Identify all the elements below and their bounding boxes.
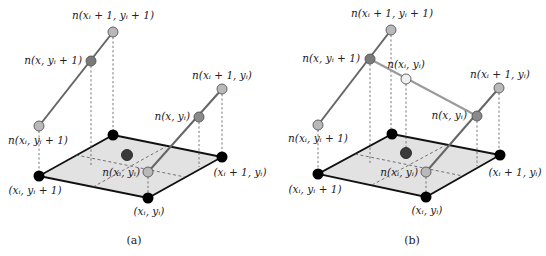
- point-n-xi-yi: [421, 167, 431, 177]
- point-label: n(x, yᵢ): [431, 109, 467, 121]
- grid-corner-point: [108, 130, 119, 141]
- point-label: (xᵢ, yᵢ): [134, 205, 165, 217]
- interpolation-line: [318, 30, 391, 125]
- point-label: n(xᵢ, yᵢ): [380, 166, 418, 178]
- point-label: n(xᵢ, yᵢ + 1): [8, 134, 68, 146]
- interpolation-line: [39, 32, 113, 126]
- point-n-xi-yi-interp: [401, 74, 411, 84]
- point-label: n(xᵢ, yᵢ): [102, 166, 140, 178]
- grid-corner-point: [143, 193, 154, 204]
- grid-corner-point: [217, 152, 228, 163]
- point-label: n(xᵢ + 1, yᵢ): [192, 69, 252, 81]
- grid-corner-point: [34, 171, 45, 182]
- point-label: n(x, yᵢ + 1): [24, 54, 82, 66]
- panel-caption: (b): [404, 234, 420, 247]
- bilinear-interpolation-figure: n(xᵢ + 1, yᵢ + 1)n(x, yᵢ + 1)n(xᵢ + 1, y…: [0, 0, 546, 256]
- point-n-xi1-yi: [494, 83, 504, 93]
- point-center-point: [122, 150, 133, 161]
- point-n-xi1-yi1: [386, 25, 396, 35]
- point-n-x-yi: [194, 112, 204, 122]
- point-n-x-yi1: [365, 54, 375, 64]
- grid-corner-point: [387, 129, 398, 140]
- point-label: n(xᵢ, yᵢ + 1): [288, 132, 348, 144]
- point-label: n(xᵢ + 1, yᵢ + 1): [72, 9, 154, 21]
- point-label: (xᵢ + 1, yᵢ): [488, 166, 541, 178]
- point-label: n(xᵢ, yᵢ): [387, 58, 425, 70]
- point-n-xi1-yi1: [108, 27, 118, 37]
- panel-caption: (a): [126, 234, 141, 247]
- point-label: n(x, yᵢ): [154, 110, 190, 122]
- diagram-canvas: n(xᵢ + 1, yᵢ + 1)n(x, yᵢ + 1)n(xᵢ + 1, y…: [0, 0, 546, 256]
- point-n-xi-yi1: [313, 120, 323, 130]
- point-center-point: [401, 148, 412, 159]
- point-label: (xᵢ, yᵢ + 1): [8, 184, 61, 196]
- panel-a: n(xᵢ + 1, yᵢ + 1)n(x, yᵢ + 1)n(xᵢ + 1, y…: [8, 9, 266, 247]
- point-label: n(xᵢ + 1, yᵢ): [470, 68, 530, 80]
- point-label: n(xᵢ + 1, yᵢ + 1): [351, 7, 433, 19]
- point-label: (xᵢ, yᵢ): [412, 204, 443, 216]
- point-n-x-yi1: [86, 56, 96, 66]
- point-label: (xᵢ + 1, yᵢ): [213, 166, 266, 178]
- grid-corner-point: [495, 150, 506, 161]
- point-n-xi-yi1: [34, 121, 44, 131]
- grid-corner-point: [421, 192, 432, 203]
- point-n-xi-yi: [143, 167, 153, 177]
- point-label: (xᵢ, yᵢ + 1): [288, 183, 341, 195]
- point-label: n(x, yᵢ + 1): [302, 52, 360, 64]
- point-n-x-yi: [472, 111, 482, 121]
- panel-b: n(xᵢ + 1, yᵢ + 1)n(x, yᵢ + 1)n(xᵢ, yᵢ)n(…: [288, 7, 541, 247]
- grid-corner-point: [313, 169, 324, 180]
- point-n-xi1-yi: [217, 84, 227, 94]
